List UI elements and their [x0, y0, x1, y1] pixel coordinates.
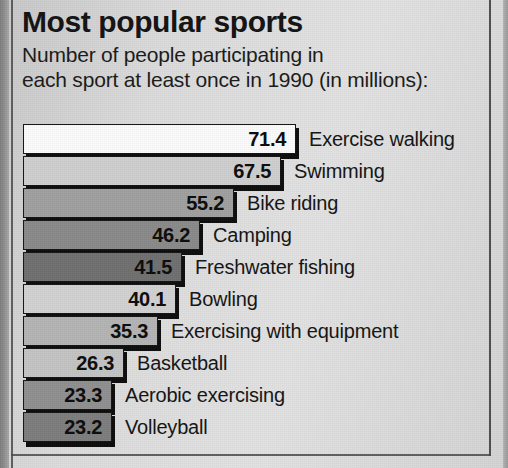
frame-bottom-rule [11, 454, 491, 456]
bar-value-label: 71.4 [248, 129, 295, 149]
bar-value-label: 35.3 [110, 321, 157, 341]
bar-value-label: 40.1 [128, 289, 175, 309]
bar: 41.5 [23, 252, 182, 282]
bar-category-label: Exercising with equipment [171, 319, 398, 343]
bar-value-label: 46.2 [152, 225, 199, 245]
bar-row: 23.3Aerobic exercising [0, 380, 508, 412]
bar-row: 67.5Swimming [0, 156, 508, 188]
bar-value-label: 23.3 [64, 385, 111, 405]
bar: 46.2 [23, 220, 200, 250]
bar-row: 55.2Bike riding [0, 188, 508, 220]
bar: 23.2 [23, 412, 112, 442]
bar-value-label: 41.5 [134, 257, 181, 277]
bar-category-label: Volleyball [125, 415, 208, 439]
bar: 55.2 [23, 188, 234, 218]
chart-heading-block: Most popular sports Number of people par… [22, 4, 484, 92]
chart-subtitle: Number of people participating in each s… [22, 42, 484, 92]
bar-value-label: 55.2 [186, 193, 233, 213]
bar-category-label: Bike riding [247, 191, 338, 215]
bar-category-label: Basketball [137, 351, 227, 375]
bar-value-label: 67.5 [233, 161, 280, 181]
newspaper-chart-clipping: Most popular sports Number of people par… [0, 0, 508, 468]
bar-category-label: Swimming [294, 159, 385, 183]
bar: 67.5 [23, 156, 281, 186]
bar-chart-plot-area: 71.4Exercise walking67.5Swimming55.2Bike… [0, 124, 508, 454]
bar-row: 26.3Basketball [0, 348, 508, 380]
bar-category-label: Camping [213, 223, 292, 247]
bar-row: 35.3Exercising with equipment [0, 316, 508, 348]
bar: 26.3 [23, 348, 124, 378]
bar-row: 40.1Bowling [0, 284, 508, 316]
bar-value-label: 23.2 [64, 417, 111, 437]
bar-row: 71.4Exercise walking [0, 124, 508, 156]
bar-category-label: Exercise walking [309, 127, 455, 151]
bar: 23.3 [23, 380, 112, 410]
bar-category-label: Aerobic exercising [125, 383, 285, 407]
bar: 40.1 [23, 284, 176, 314]
bar-row: 41.5Freshwater fishing [0, 252, 508, 284]
bar: 35.3 [23, 316, 158, 346]
chart-title: Most popular sports [22, 4, 484, 40]
bar-category-label: Freshwater fishing [195, 255, 355, 279]
bar: 71.4 [23, 124, 296, 154]
bar-category-label: Bowling [189, 287, 258, 311]
bar-value-label: 26.3 [76, 353, 123, 373]
bar-row: 23.2Volleyball [0, 412, 508, 444]
bar-row: 46.2Camping [0, 220, 508, 252]
